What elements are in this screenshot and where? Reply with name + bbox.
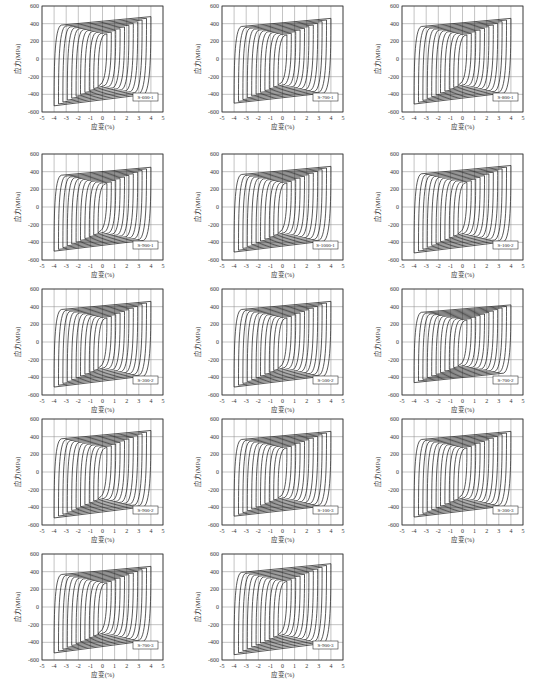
svg-text:-600: -600 bbox=[28, 257, 39, 263]
hysteresis-chart-s-100-3: -5-4-3-2-1012345-600-400-2000200400600应变… bbox=[180, 413, 355, 548]
svg-text:0: 0 bbox=[461, 528, 464, 534]
svg-text:-4: -4 bbox=[52, 263, 57, 269]
svg-text:-1: -1 bbox=[448, 528, 453, 534]
svg-text:0: 0 bbox=[281, 398, 284, 404]
svg-text:5: 5 bbox=[342, 115, 345, 121]
svg-text:-5: -5 bbox=[220, 398, 225, 404]
svg-text:200: 200 bbox=[30, 321, 39, 327]
svg-text:4: 4 bbox=[509, 115, 512, 121]
svg-text:3: 3 bbox=[497, 115, 500, 121]
svg-text:-400: -400 bbox=[28, 639, 39, 645]
svg-text:应力(MPa): 应力(MPa) bbox=[373, 327, 382, 358]
svg-text:1: 1 bbox=[293, 398, 296, 404]
svg-text:4: 4 bbox=[329, 263, 332, 269]
svg-text:4: 4 bbox=[149, 663, 152, 669]
svg-text:-5: -5 bbox=[400, 528, 405, 534]
svg-text:-200: -200 bbox=[208, 487, 219, 493]
svg-text:0: 0 bbox=[101, 398, 104, 404]
svg-text:应力(MPa): 应力(MPa) bbox=[13, 192, 22, 223]
svg-text:2: 2 bbox=[485, 398, 488, 404]
hysteresis-chart-s-900-3: -5-4-3-2-1012345-600-400-2000200400600应变… bbox=[180, 548, 355, 683]
specimen-label: S-300-3 bbox=[493, 506, 518, 514]
svg-text:0: 0 bbox=[36, 56, 39, 62]
svg-text:-5: -5 bbox=[40, 115, 45, 121]
svg-text:应力(MPa): 应力(MPa) bbox=[13, 327, 22, 358]
svg-text:0: 0 bbox=[216, 339, 219, 345]
specimen-label: S-900-2 bbox=[133, 506, 158, 514]
svg-text:-1: -1 bbox=[88, 263, 93, 269]
svg-text:4: 4 bbox=[509, 263, 512, 269]
svg-text:S-1000-1: S-1000-1 bbox=[316, 243, 335, 248]
svg-text:-5: -5 bbox=[400, 115, 405, 121]
svg-text:-2: -2 bbox=[436, 398, 441, 404]
svg-text:-4: -4 bbox=[232, 663, 237, 669]
svg-text:应力(MPa): 应力(MPa) bbox=[193, 192, 202, 223]
svg-text:3: 3 bbox=[317, 398, 320, 404]
svg-text:4: 4 bbox=[509, 398, 512, 404]
svg-text:-2: -2 bbox=[256, 115, 261, 121]
svg-text:600: 600 bbox=[30, 551, 39, 557]
svg-text:应力(MPa): 应力(MPa) bbox=[13, 592, 22, 623]
svg-text:400: 400 bbox=[210, 304, 219, 310]
svg-text:2: 2 bbox=[125, 398, 128, 404]
svg-text:0: 0 bbox=[36, 339, 39, 345]
svg-text:1: 1 bbox=[113, 528, 116, 534]
svg-text:3: 3 bbox=[137, 398, 140, 404]
svg-text:-200: -200 bbox=[208, 357, 219, 363]
specimen-label: S-900-3 bbox=[313, 641, 338, 649]
svg-text:应力(MPa): 应力(MPa) bbox=[373, 44, 382, 75]
svg-text:2: 2 bbox=[125, 263, 128, 269]
svg-text:-200: -200 bbox=[28, 357, 39, 363]
svg-text:应变(%): 应变(%) bbox=[91, 535, 115, 544]
specimen-label: S-800-1 bbox=[493, 93, 518, 101]
svg-text:5: 5 bbox=[162, 663, 165, 669]
svg-text:400: 400 bbox=[30, 569, 39, 575]
svg-text:600: 600 bbox=[210, 3, 219, 9]
svg-text:1: 1 bbox=[113, 663, 116, 669]
svg-text:-2: -2 bbox=[436, 528, 441, 534]
svg-text:-2: -2 bbox=[256, 663, 261, 669]
svg-text:4: 4 bbox=[149, 263, 152, 269]
svg-text:应变(%): 应变(%) bbox=[271, 270, 295, 279]
svg-text:-600: -600 bbox=[28, 522, 39, 528]
svg-text:-1: -1 bbox=[268, 115, 273, 121]
svg-text:-600: -600 bbox=[208, 109, 219, 115]
svg-text:-4: -4 bbox=[232, 263, 237, 269]
svg-text:-3: -3 bbox=[244, 663, 249, 669]
svg-text:600: 600 bbox=[30, 416, 39, 422]
svg-text:5: 5 bbox=[162, 263, 165, 269]
svg-text:1: 1 bbox=[113, 115, 116, 121]
svg-text:-3: -3 bbox=[244, 528, 249, 534]
svg-text:400: 400 bbox=[390, 434, 399, 440]
svg-text:3: 3 bbox=[317, 263, 320, 269]
svg-text:-3: -3 bbox=[64, 263, 69, 269]
svg-text:200: 200 bbox=[30, 38, 39, 44]
svg-text:-200: -200 bbox=[388, 487, 399, 493]
svg-text:1: 1 bbox=[473, 398, 476, 404]
svg-text:应力(MPa): 应力(MPa) bbox=[373, 457, 382, 488]
svg-text:4: 4 bbox=[329, 528, 332, 534]
specimen-label: S-900-1 bbox=[133, 241, 158, 249]
svg-text:-200: -200 bbox=[28, 622, 39, 628]
svg-text:5: 5 bbox=[162, 115, 165, 121]
svg-text:5: 5 bbox=[522, 263, 525, 269]
svg-text:S-800-1: S-800-1 bbox=[497, 95, 514, 100]
hysteresis-chart-s-700-1: -5-4-3-2-1012345-600-400-2000200400600应变… bbox=[180, 0, 355, 135]
svg-text:4: 4 bbox=[149, 115, 152, 121]
svg-text:600: 600 bbox=[30, 286, 39, 292]
svg-text:-4: -4 bbox=[232, 528, 237, 534]
svg-text:0: 0 bbox=[281, 663, 284, 669]
svg-text:应力(MPa): 应力(MPa) bbox=[193, 592, 202, 623]
svg-text:-400: -400 bbox=[388, 504, 399, 510]
svg-text:2: 2 bbox=[305, 663, 308, 669]
svg-text:应变(%): 应变(%) bbox=[451, 270, 475, 279]
svg-text:2: 2 bbox=[305, 398, 308, 404]
svg-text:2: 2 bbox=[125, 115, 128, 121]
svg-text:-5: -5 bbox=[400, 398, 405, 404]
svg-text:4: 4 bbox=[149, 528, 152, 534]
svg-text:-600: -600 bbox=[208, 257, 219, 263]
svg-text:1: 1 bbox=[473, 263, 476, 269]
svg-text:0: 0 bbox=[216, 56, 219, 62]
svg-text:400: 400 bbox=[30, 169, 39, 175]
svg-text:400: 400 bbox=[30, 434, 39, 440]
